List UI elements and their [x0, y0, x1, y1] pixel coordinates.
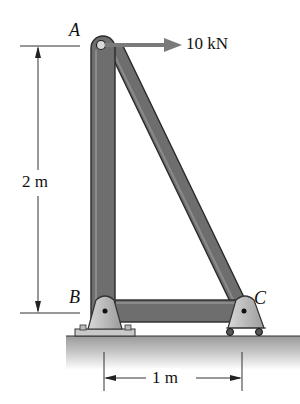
member-bc: [100, 300, 246, 322]
point-label-c: C: [254, 288, 266, 309]
dimension-label-vertical: 2 m: [20, 172, 50, 192]
frame-diagram: [0, 0, 300, 404]
point-label-b: B: [69, 287, 80, 308]
member-ac: [106, 44, 254, 318]
member-ab: [91, 36, 115, 320]
load-label: 10 kN: [186, 34, 228, 54]
dimension-label-horizontal: 1 m: [150, 368, 180, 388]
ground: [66, 336, 300, 370]
pin-a-icon: [97, 41, 106, 50]
point-label-a: A: [69, 20, 80, 41]
